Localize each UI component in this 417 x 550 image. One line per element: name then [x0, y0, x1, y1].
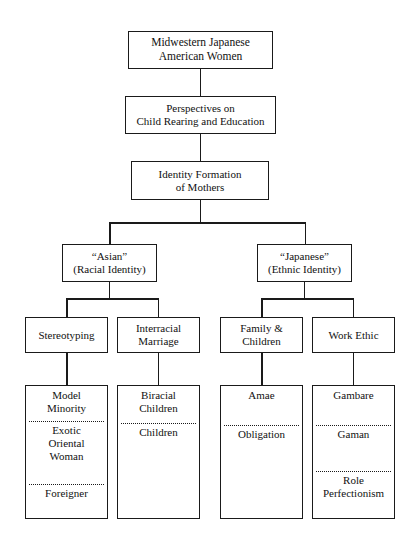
connector-root-to-level2 — [200, 69, 202, 96]
node-branch-asian-line1: “Asian” — [92, 250, 127, 263]
node-category-stereotyping: Stereotyping — [25, 317, 108, 353]
connector-bar-to-branch-japanese — [305, 222, 307, 244]
leafbox-stereotyping: Model Minority Exotic Oriental Woman For… — [25, 385, 108, 519]
node-branch-japanese: “Japanese” (Ethnic Identity) — [257, 244, 352, 282]
node-category-family-children-line1: Family & — [240, 322, 282, 335]
node-branch-japanese-line1: “Japanese” — [280, 250, 329, 263]
leaf-item-amae-line1: Amae — [248, 389, 274, 402]
hierarchy-diagram: Midwestern Japanese American Women Persp… — [0, 0, 417, 550]
connector-bar-to-stereotyping — [66, 298, 68, 317]
node-level2: Perspectives on Child Rearing and Educat… — [125, 96, 276, 134]
leaf-item-foreigner: Foreigner — [26, 484, 107, 518]
split-bar-asian-categories — [66, 298, 159, 300]
node-category-family-children-line2: Children — [242, 335, 281, 348]
leaf-item-gaman-line1: Gaman — [338, 428, 370, 441]
node-level2-line2: Child Rearing and Education — [137, 115, 265, 128]
leaf-item-biracial-children-line1: Biracial — [141, 389, 176, 402]
leaf-item-exotic-oriental-woman-line3: Woman — [50, 450, 84, 463]
node-branch-japanese-line2: (Ethnic Identity) — [268, 263, 341, 276]
leaf-item-model-minority-line1: Model — [52, 389, 81, 402]
leaf-item-model-minority-line2: Minority — [47, 402, 86, 415]
leaf-item-gaman: Gaman — [313, 425, 394, 471]
connector-bar-to-work-ethic — [353, 298, 355, 317]
leaf-item-exotic-oriental-woman: Exotic Oriental Woman — [26, 421, 107, 484]
connector-level2-to-level3 — [200, 134, 202, 161]
leaf-item-amae: Amae — [221, 386, 302, 425]
leaf-item-obligation: Obligation — [221, 425, 302, 518]
node-root-line2: American Women — [159, 50, 243, 64]
connector-japanese-trunk — [304, 282, 306, 299]
leaf-item-role-perfectionism: Role Perfectionism — [313, 471, 394, 518]
leaf-item-biracial-children: Biracial Children — [118, 386, 199, 423]
node-category-interracial-marriage-line1: Interracial — [136, 322, 181, 335]
node-category-work-ethic-line1: Work Ethic — [328, 329, 378, 342]
leafbox-interracial-marriage: Biracial Children Children — [117, 385, 200, 519]
leaf-item-obligation-line1: Obligation — [238, 428, 285, 441]
leaf-item-foreigner-line1: Foreigner — [45, 487, 88, 500]
connector-interracial-marriage-to-leaf — [158, 353, 160, 385]
node-branch-asian: “Asian” (Racial Identity) — [62, 244, 157, 282]
node-level3: Identity Formation of Mothers — [131, 161, 269, 200]
connector-asian-trunk — [109, 282, 111, 299]
node-category-interracial-marriage-line2: Marriage — [138, 335, 178, 348]
node-level2-line1: Perspectives on — [166, 102, 235, 115]
leaf-item-happa: Children — [118, 423, 199, 518]
node-level3-line2: of Mothers — [176, 181, 225, 194]
node-root-line1: Midwestern Japanese — [151, 36, 250, 50]
leaf-item-role-perfectionism-line2: Perfectionism — [323, 487, 384, 500]
node-category-stereotyping-line1: Stereotyping — [38, 329, 94, 342]
connector-level3-trunk — [200, 200, 202, 223]
node-category-work-ethic: Work Ethic — [312, 317, 395, 353]
leaf-item-biracial-children-line2: Children — [139, 402, 178, 415]
connector-bar-to-family-children — [261, 298, 263, 317]
leaf-item-happa-line1: Children — [139, 426, 178, 439]
node-root: Midwestern Japanese American Women — [128, 31, 273, 69]
connector-bar-to-interracial-marriage — [158, 298, 160, 317]
node-category-interracial-marriage: Interracial Marriage — [117, 317, 200, 353]
connector-bar-to-branch-asian — [109, 222, 111, 244]
node-category-family-children: Family & Children — [220, 317, 303, 353]
leaf-item-gambare: Gambare — [313, 386, 394, 425]
leaf-item-exotic-oriental-woman-line2: Oriental — [48, 437, 84, 450]
node-level3-line1: Identity Formation — [159, 168, 242, 181]
leaf-item-model-minority: Model Minority — [26, 386, 107, 421]
leafbox-work-ethic: Gambare Gaman Role Perfectionism — [312, 385, 395, 519]
connector-family-children-to-leaf — [261, 353, 263, 385]
leaf-item-exotic-oriental-woman-line1: Exotic — [52, 424, 81, 437]
leaf-item-gambare-line1: Gambare — [333, 389, 373, 402]
split-bar-identities — [109, 222, 306, 224]
node-branch-asian-line2: (Racial Identity) — [73, 263, 145, 276]
connector-work-ethic-to-leaf — [353, 353, 355, 385]
leafbox-family-children: Amae Obligation — [220, 385, 303, 519]
connector-stereotyping-to-leaf — [66, 353, 68, 385]
leaf-item-role-perfectionism-line1: Role — [343, 474, 364, 487]
split-bar-japanese-categories — [261, 298, 354, 300]
